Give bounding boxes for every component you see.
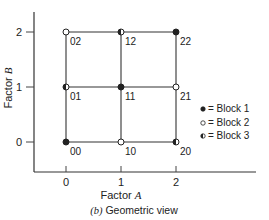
- caption-prefix: (b): [90, 205, 103, 217]
- point-12: [118, 29, 124, 35]
- x-ticks: 0 1 2: [63, 166, 179, 188]
- legend-label-block-2: = Block 2: [208, 117, 250, 128]
- point-label-00: 00: [70, 146, 82, 157]
- point-10: [118, 139, 124, 145]
- y-tick-label-1: 1: [16, 81, 22, 93]
- x-axis-title-var: A: [134, 189, 142, 201]
- x-tick-label-1: 1: [118, 176, 124, 188]
- x-axis-title-text: Factor: [101, 189, 135, 201]
- point-label-01: 01: [70, 91, 82, 102]
- legend-label-block-3: = Block 3: [208, 130, 250, 141]
- x-axis-title: Factor A: [101, 189, 142, 201]
- y-axis-title-var: B: [2, 67, 14, 74]
- geometric-view-diagram: 2 1 0 0 1 2 00 10: [0, 0, 269, 220]
- x-tick-label-0: 0: [63, 176, 69, 188]
- point-label-21: 21: [180, 91, 192, 102]
- legend: = Block 1 = Block 2 = Block 3: [201, 103, 250, 141]
- y-tick-label-2: 2: [16, 26, 22, 38]
- point-21: [173, 84, 179, 90]
- point-22: [173, 29, 179, 35]
- point-label-20: 20: [180, 146, 192, 157]
- point-label-10: 10: [125, 146, 137, 157]
- legend-label-block-1: = Block 1: [208, 103, 250, 114]
- filled-circle-icon: [118, 84, 124, 90]
- point-00: [63, 139, 69, 145]
- point-label-02: 02: [70, 36, 82, 47]
- open-circle-icon: [63, 29, 69, 35]
- figure-caption: (b) Geometric view: [90, 204, 178, 217]
- y-tick-label-0: 0: [16, 136, 22, 148]
- open-circle-icon: [118, 139, 124, 145]
- legend-item-block-3: = Block 3: [201, 130, 250, 141]
- design-points: 00 10 20 01 11 21 02: [63, 29, 192, 157]
- point-02: [63, 29, 69, 35]
- legend-item-block-1: = Block 1: [201, 103, 250, 114]
- filled-circle-icon: [63, 139, 69, 145]
- point-01: [63, 84, 69, 90]
- caption-text: Geometric view: [102, 204, 178, 216]
- point-label-11: 11: [125, 91, 136, 102]
- x-tick-label-2: 2: [173, 176, 179, 188]
- filled-circle-icon: [173, 29, 179, 35]
- filled-circle-icon: [201, 107, 205, 111]
- y-axis-title: Factor B: [2, 67, 14, 108]
- legend-item-block-2: = Block 2: [201, 117, 250, 128]
- open-circle-icon: [173, 84, 179, 90]
- open-circle-icon: [201, 121, 205, 125]
- y-axis-title-text: Factor: [2, 74, 14, 108]
- point-label-22: 22: [180, 36, 192, 47]
- point-20: [173, 139, 179, 145]
- point-11: [118, 84, 124, 90]
- y-ticks: 2 1 0: [16, 26, 34, 148]
- point-label-12: 12: [125, 36, 137, 47]
